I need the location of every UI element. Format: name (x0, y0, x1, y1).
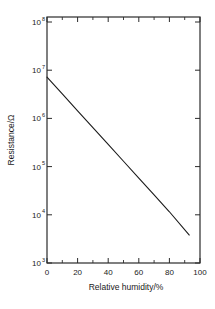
y-tick-label-exponent-1: 4 (42, 208, 45, 214)
y-tick-label-exponent-5: 8 (42, 16, 45, 22)
x-axis-title: Relative humidity/% (89, 282, 164, 292)
x-tick-label-3: 60 (134, 268, 143, 277)
x-tick-label-4: 80 (165, 268, 174, 277)
y-tick-label-mantissa-3: 10 (32, 114, 41, 123)
y-tick-label-exponent-4: 7 (42, 64, 45, 70)
x-tick-label-5: 100 (193, 268, 207, 277)
data-series-line (47, 77, 189, 235)
y-tick-label-mantissa-1: 10 (32, 211, 41, 220)
x-axis-tick-labels: 0 20 40 60 80 100 (45, 268, 207, 277)
y-tick-label-mantissa-4: 10 (32, 66, 41, 75)
y-tick-label-mantissa-0: 10 (32, 259, 41, 268)
resistance-vs-humidity-chart: 10 3 10 4 10 5 10 6 10 7 10 8 0 20 40 60… (0, 0, 215, 309)
chart-figure: 10 3 10 4 10 5 10 6 10 7 10 8 0 20 40 60… (0, 0, 215, 309)
x-tick-label-1: 20 (73, 268, 82, 277)
y-axis-title: Resistance/Ω (6, 115, 16, 166)
x-tick-label-2: 40 (104, 268, 113, 277)
y-axis-major-ticks-right (195, 22, 200, 263)
y-tick-label-mantissa-2: 10 (32, 163, 41, 172)
y-tick-label-exponent-0: 3 (42, 257, 45, 263)
y-tick-label-exponent-2: 5 (42, 160, 45, 166)
y-axis-tick-labels: 10 3 10 4 10 5 10 6 10 7 10 8 (32, 16, 45, 269)
y-tick-label-mantissa-5: 10 (32, 18, 41, 27)
y-tick-label-exponent-3: 6 (42, 112, 45, 118)
y-axis-major-ticks (47, 22, 52, 263)
plot-frame (47, 17, 200, 263)
x-tick-label-0: 0 (45, 268, 50, 277)
